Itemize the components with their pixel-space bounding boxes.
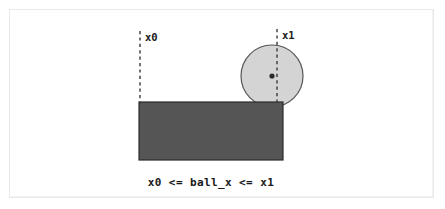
diagram-screenshot: x0 x1 x0 <= ball_x <= x1	[0, 0, 445, 209]
x0-label: x0	[145, 31, 158, 43]
x1-label: x1	[282, 29, 295, 41]
collision-range-diagram: x0 x1 x0 <= ball_x <= x1	[0, 0, 445, 209]
ball-center-dot	[269, 73, 274, 78]
figure-caption: x0 <= ball_x <= x1	[148, 176, 274, 189]
diagram-canvas: x0 x1 x0 <= ball_x <= x1	[0, 0, 445, 209]
platform-rectangle	[139, 102, 283, 160]
